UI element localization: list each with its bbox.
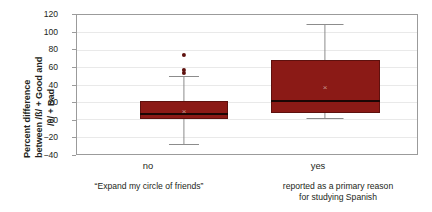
- median-line-yes: [271, 100, 380, 102]
- x-caption-yes: reported as a primary reason for studyin…: [248, 181, 428, 203]
- x-tick-label-no: no: [110, 160, 186, 171]
- y-tick-mark: [72, 155, 76, 156]
- y-tick-label-minus40: −40: [18, 150, 58, 160]
- y-tick-label-minus20: −20: [18, 132, 58, 142]
- whisker-cap-lower-no: [169, 144, 199, 145]
- x-caption-no: “Expand my circle of friends”: [56, 181, 242, 192]
- outlier-point-no: [182, 53, 186, 57]
- mean-marker-no: ×: [181, 108, 188, 115]
- whisker-cap-upper-no: [169, 76, 199, 77]
- y-tick-label-120: 120: [18, 9, 58, 19]
- boxplot-figure: Percent difference between /ß/ + Good an…: [0, 0, 432, 212]
- y-tick-label-60: 60: [18, 62, 58, 72]
- y-axis-title-text-3: /θ/ + Bad: [46, 57, 58, 158]
- y-axis-title-text-2: between /ß/ + Good and: [34, 57, 44, 158]
- boxplot-group-no[interactable]: ×: [140, 15, 228, 154]
- y-axis-title-line-2: between /ß/ + Good and /θ/ + Bad: [34, 57, 57, 158]
- outlier-point-no: [182, 71, 186, 75]
- y-tick-label-80: 80: [18, 44, 58, 54]
- mean-marker-yes: ×: [322, 84, 329, 91]
- x-tick-label-yes: yes: [280, 160, 356, 171]
- y-tick-label-100: 100: [18, 27, 58, 37]
- plot-area: × ×: [76, 14, 418, 155]
- whisker-cap-lower-yes: [307, 118, 344, 119]
- boxplot-group-yes[interactable]: ×: [271, 15, 380, 154]
- plot-inner: × ×: [77, 15, 417, 154]
- y-tick-label-20: 20: [18, 97, 58, 107]
- x-caption-yes-line2: for studying Spanish: [299, 192, 377, 202]
- x-caption-yes-line1: reported as a primary reason: [283, 181, 393, 191]
- y-tick-label-0: 0: [18, 115, 58, 125]
- y-tick-label-40: 40: [18, 80, 58, 90]
- whisker-cap-upper-yes: [307, 24, 344, 25]
